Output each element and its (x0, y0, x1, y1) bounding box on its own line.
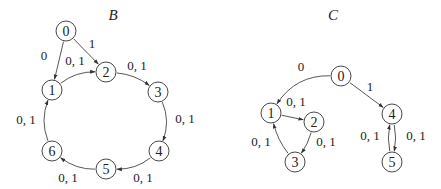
edge-C-3-1 (274, 124, 289, 154)
state-label: 5 (103, 162, 110, 177)
state-label: 2 (311, 115, 318, 130)
state-node-B-0: 0 (56, 21, 76, 41)
state-label: 3 (292, 155, 299, 170)
edge-B-1-2 (61, 72, 95, 83)
state-node-B-2: 2 (96, 62, 116, 82)
edge-label-B-6-1: 0, 1 (16, 112, 36, 127)
edge-C-4-5 (394, 125, 395, 151)
edge-B-5-6 (61, 158, 95, 169)
state-label: 0 (63, 24, 70, 39)
edge-C-2-3 (301, 133, 311, 153)
state-node-B-3: 3 (148, 82, 168, 102)
edge-label-B-2-3: 0, 1 (127, 58, 147, 73)
state-label: 2 (103, 65, 110, 80)
edge-label-C-0-4: 1 (367, 79, 374, 94)
state-node-C-1: 1 (261, 103, 281, 123)
edge-label-C-2-3: 0, 1 (316, 134, 336, 149)
edge-label-C-5-4: 0, 1 (360, 128, 380, 143)
graph-title-C: C (328, 7, 339, 23)
graph-title-B: B (108, 7, 117, 23)
edge-B-0-1 (55, 42, 64, 80)
state-node-C-4: 4 (382, 104, 402, 124)
edge-B-4-5 (117, 158, 150, 169)
edge-label-B-4-5: 0, 1 (133, 170, 153, 185)
edge-B-6-1 (44, 100, 48, 141)
diagram-canvas: 0123456012345 B010, 10, 10, 10, 10, 10, … (0, 0, 441, 189)
state-label: 6 (49, 144, 56, 159)
edge-label-B-0-1: 0 (41, 48, 48, 63)
edge-label-B-0-2: 1 (89, 36, 96, 51)
edge-B-2-3 (117, 73, 149, 85)
state-node-B-6: 6 (42, 141, 62, 161)
state-node-B-4: 4 (149, 141, 169, 161)
state-node-B-5: 5 (96, 159, 116, 179)
state-label: 4 (389, 107, 396, 122)
state-label: 5 (389, 155, 396, 170)
edge-label-B-1-2: 0, 1 (65, 53, 85, 68)
state-label: 1 (49, 83, 56, 98)
state-label: 1 (268, 106, 275, 121)
edge-B-3-4 (162, 102, 166, 141)
edge-label-B-5-6: 0, 1 (58, 170, 78, 185)
edge-label-C-3-1: 0, 1 (251, 134, 271, 149)
edge-label-C-1-2: 0, 1 (286, 94, 306, 109)
state-label: 0 (338, 69, 345, 84)
edge-C-5-4 (388, 125, 389, 151)
state-label: 4 (156, 144, 163, 159)
state-node-C-5: 5 (382, 152, 402, 172)
state-node-B-1: 1 (42, 80, 62, 100)
state-node-C-2: 2 (304, 112, 324, 132)
edge-label-B-3-4: 0, 1 (175, 111, 195, 126)
edge-C-1-2 (282, 115, 303, 119)
state-label: 3 (155, 85, 162, 100)
state-node-C-0: 0 (331, 66, 351, 86)
edge-label-C-4-5: 0, 1 (406, 128, 426, 143)
edge-label-C-0-1: 0 (298, 59, 305, 74)
state-node-C-3: 3 (285, 152, 305, 172)
